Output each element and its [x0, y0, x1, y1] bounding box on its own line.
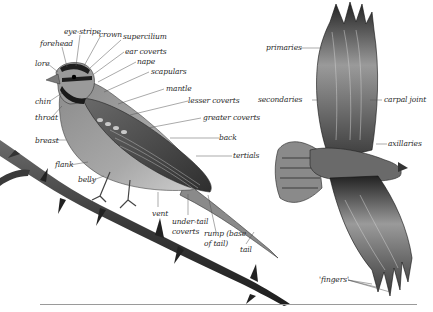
label-crown: crown	[99, 31, 122, 39]
label-under-tail-coverts-line2: coverts	[172, 228, 199, 236]
label-eye-stripe: eye-stripe	[64, 28, 101, 36]
label-chin: chin	[35, 98, 51, 106]
label-back: back	[219, 134, 237, 142]
label-mantle: mantle	[166, 85, 192, 93]
label-under-tail-coverts-line1: under-tail	[172, 218, 208, 226]
label-axillaries: axillaries	[388, 140, 422, 148]
label-primaries: primaries	[266, 44, 302, 52]
label-vent: vent	[152, 210, 168, 218]
label-ear-coverts: ear coverts	[125, 48, 167, 56]
label-rump-line1: rump (base	[204, 230, 246, 238]
label-tail: tail	[240, 246, 252, 254]
label-flank: flank	[55, 161, 74, 169]
label-scapulars: scapulars	[151, 68, 187, 76]
label-greater-coverts: greater coverts	[203, 114, 260, 122]
label-secondaries: secondaries	[258, 96, 302, 104]
label-fingers: 'fingers'	[319, 276, 349, 284]
baseline-rule	[40, 304, 417, 305]
label-throat: throat	[35, 114, 58, 122]
label-supercilium: supercilium	[123, 33, 167, 41]
label-breast: breast	[35, 137, 59, 145]
label-belly: belly	[78, 176, 96, 184]
label-carpal-joint: carpal joint	[384, 96, 426, 104]
label-nape: nape	[137, 58, 155, 66]
label-lore: lore	[35, 60, 50, 68]
label-lesser-coverts: lesser coverts	[188, 97, 239, 105]
label-tertials: tertials	[233, 152, 259, 160]
label-forehead: forehead	[40, 40, 73, 48]
label-rump-line2: of tail)	[204, 240, 228, 248]
